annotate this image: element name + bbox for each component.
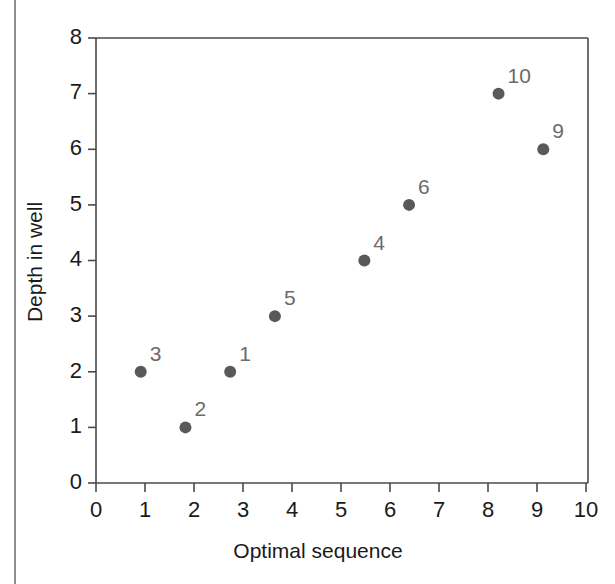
- data-point-marker: [179, 421, 191, 433]
- data-point-label: 1: [239, 342, 251, 365]
- x-tick-label: 5: [335, 497, 347, 522]
- data-point: 6: [403, 175, 430, 211]
- x-tick-label: 0: [90, 497, 102, 522]
- data-points-layer: 321546109: [135, 64, 564, 434]
- plot-frame: [96, 38, 588, 483]
- y-tick-label: 1: [70, 413, 82, 438]
- data-point: 2: [179, 397, 206, 433]
- y-tick-label: 3: [70, 302, 82, 327]
- data-point-marker: [493, 88, 505, 100]
- y-tick-label: 0: [70, 469, 82, 494]
- data-point-label: 6: [418, 175, 430, 198]
- scatter-plot-figure: 0 1 2 3 4 5 6 7 8: [0, 0, 615, 584]
- data-point: 10: [493, 64, 531, 100]
- plot-canvas: 0 1 2 3 4 5 6 7 8: [0, 0, 615, 584]
- x-tick-marks: [96, 483, 586, 492]
- x-tick-label: 8: [482, 497, 494, 522]
- y-tick-label: 7: [70, 79, 82, 104]
- y-tick-label: 4: [70, 246, 82, 271]
- x-tick-label: 6: [384, 497, 396, 522]
- x-tick-label: 3: [237, 497, 249, 522]
- y-tick-label: 8: [70, 24, 82, 49]
- data-point: 1: [224, 342, 251, 378]
- data-point-marker: [403, 199, 415, 211]
- y-tick-marks: [88, 38, 96, 483]
- x-tick-label: 10: [574, 497, 598, 522]
- data-point-label: 4: [373, 231, 385, 254]
- data-point-label: 5: [284, 286, 296, 309]
- data-point: 5: [269, 286, 296, 322]
- y-axis: 0 1 2 3 4 5 6 7 8: [70, 24, 96, 494]
- data-point-marker: [224, 366, 236, 378]
- data-point-marker: [135, 366, 147, 378]
- x-tick-label: 2: [188, 497, 200, 522]
- data-point: 3: [135, 342, 162, 378]
- x-tick-label: 9: [531, 497, 543, 522]
- data-point-label: 9: [552, 119, 564, 142]
- data-point: 4: [358, 231, 385, 267]
- data-point-marker: [537, 143, 549, 155]
- x-axis-title: Optimal sequence: [233, 539, 402, 562]
- y-axis-title: Depth in well: [23, 202, 46, 322]
- y-tick-label: 5: [70, 191, 82, 216]
- x-tick-label: 1: [139, 497, 151, 522]
- y-tick-label: 2: [70, 358, 82, 383]
- data-point-label: 3: [150, 342, 162, 365]
- data-point-label: 10: [508, 64, 531, 87]
- x-axis: 0 1 2 3 4 5 6 7 8 9 10: [90, 483, 598, 522]
- x-tick-label: 7: [433, 497, 445, 522]
- data-point-label: 2: [194, 397, 206, 420]
- data-point-marker: [358, 255, 370, 267]
- data-point-marker: [269, 310, 281, 322]
- y-tick-label: 6: [70, 135, 82, 160]
- data-point: 9: [537, 119, 564, 155]
- x-tick-label: 4: [286, 497, 298, 522]
